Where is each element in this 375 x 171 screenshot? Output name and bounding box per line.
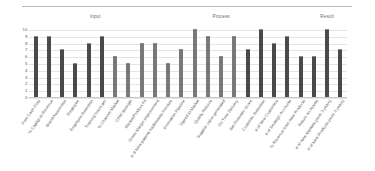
bar — [179, 49, 183, 98]
bar-series — [29, 30, 347, 98]
y-axis-tick-label: 7 — [25, 48, 27, 52]
header-divider — [22, 6, 352, 7]
bar-slot — [307, 30, 320, 98]
y-axis-tick-label: 6 — [25, 55, 27, 59]
bar-slot — [175, 30, 188, 98]
y-axis-tick-label: 9 — [25, 35, 27, 39]
bar — [47, 36, 51, 98]
y-axis-tick-label: 5 — [25, 62, 27, 66]
bar — [272, 43, 276, 98]
y-axis-tick-label: 8 — [25, 41, 27, 45]
bar-slot — [281, 30, 294, 98]
bar-slot — [294, 30, 307, 98]
bar — [140, 43, 144, 98]
y-axis-tick-label: 1 — [25, 89, 27, 93]
bar-slot — [148, 30, 161, 98]
bar — [166, 63, 170, 98]
group-header-band: InputProcessResult — [0, 14, 375, 24]
bar — [193, 29, 197, 98]
group-header-result: Result — [320, 14, 334, 19]
bar-slot — [268, 30, 281, 98]
bar — [126, 63, 130, 98]
bar — [246, 49, 250, 98]
plot-area: 109876543210 — [29, 30, 347, 98]
bar — [232, 36, 236, 98]
bar — [299, 56, 303, 98]
bar-slot — [109, 30, 122, 98]
bar-slot — [188, 30, 201, 98]
bar — [312, 56, 316, 98]
y-axis-tick-label: 0 — [25, 96, 27, 100]
bar-slot — [254, 30, 267, 98]
bar-slot — [95, 30, 108, 98]
bar — [87, 43, 91, 98]
bar — [60, 49, 64, 98]
bar — [34, 36, 38, 98]
y-axis-tick-label: 4 — [25, 69, 27, 73]
bar-slot — [228, 30, 241, 98]
bar-slot — [42, 30, 55, 98]
bar — [100, 36, 104, 98]
bar-chart: InputProcessResult 109876543210 Free Cas… — [0, 0, 375, 171]
bar — [219, 56, 223, 98]
bar-slot — [201, 30, 214, 98]
bar — [338, 49, 342, 98]
bar-slot — [162, 30, 175, 98]
bar — [285, 36, 289, 98]
group-header-input: Input — [90, 14, 101, 19]
category-axis-labels: Free Cash Flow% Capital to RevenueBrand … — [29, 99, 347, 171]
bar — [206, 36, 210, 98]
bar-slot — [56, 30, 69, 98]
bar-slot — [321, 30, 334, 98]
bar-slot — [29, 30, 42, 98]
bar — [73, 63, 77, 98]
bar — [259, 29, 263, 98]
bar — [113, 56, 117, 98]
y-axis-tick-label: 3 — [25, 75, 27, 79]
bar — [325, 29, 329, 98]
bar — [153, 43, 157, 98]
bar-slot — [334, 30, 347, 98]
bar-slot — [122, 30, 135, 98]
y-axis-tick-label: 10 — [23, 28, 28, 32]
group-header-process: Process — [212, 14, 229, 19]
y-axis-tick-label: 2 — [25, 82, 27, 86]
bar-slot — [69, 30, 82, 98]
bar-slot — [215, 30, 228, 98]
bar-slot — [82, 30, 95, 98]
bar-slot — [135, 30, 148, 98]
bar-slot — [241, 30, 254, 98]
